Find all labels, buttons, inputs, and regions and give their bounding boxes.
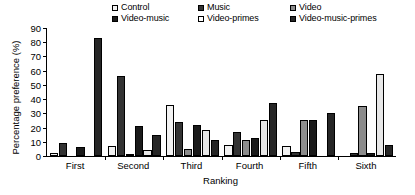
bar <box>309 120 317 156</box>
bar <box>282 146 290 156</box>
bar-group <box>105 28 163 156</box>
legend-item-label: Control <box>121 2 149 13</box>
bar <box>385 145 393 156</box>
bar <box>76 147 84 156</box>
x-axis-tick-labels: FirstSecondThirdFourthFifthSixth <box>46 160 395 172</box>
y-axis-tick-label: 50 <box>30 79 41 90</box>
bar <box>166 105 174 156</box>
bar-group <box>280 28 338 156</box>
x-axis-tick-label: Second <box>104 160 162 172</box>
bar <box>233 132 241 156</box>
y-axis-tick-label: 70 <box>30 51 41 62</box>
bar <box>202 130 210 156</box>
bar <box>59 143 67 156</box>
legend-item-label: Video-music-primes <box>299 13 377 24</box>
legend-swatch-icon <box>198 16 204 22</box>
bar <box>327 113 335 156</box>
legend-swatch-icon <box>290 16 296 22</box>
bar <box>242 140 250 156</box>
bar <box>260 120 268 156</box>
bar <box>269 103 277 156</box>
bar <box>300 120 308 156</box>
y-axis-tick <box>43 156 47 157</box>
bar <box>94 38 102 156</box>
plot-area: 0102030405060708090 <box>46 28 396 157</box>
x-axis-tick-label: Third <box>162 160 220 172</box>
bar <box>135 126 143 156</box>
legend-item: Video <box>290 2 386 13</box>
bar <box>367 153 375 156</box>
legend-item: Video-music <box>112 13 198 24</box>
legend-item-label: Video <box>299 2 321 13</box>
y-axis-tick-label: 40 <box>30 94 41 105</box>
bar-groups <box>47 28 396 156</box>
bar <box>211 140 219 156</box>
y-axis-tick-label: 30 <box>30 108 41 119</box>
legend-item: Video-music-primes <box>290 13 386 24</box>
bar <box>358 106 366 156</box>
x-axis-tick-label: Fourth <box>221 160 279 172</box>
legend-item: Control <box>112 2 198 13</box>
bar-group <box>338 28 396 156</box>
x-axis-tick-label: First <box>46 160 104 172</box>
bar <box>50 153 58 156</box>
bar-group <box>47 28 105 156</box>
bar <box>152 135 160 156</box>
legend-item-label: Video-primes <box>207 13 259 24</box>
legend-swatch-icon <box>290 5 296 11</box>
chart-legend: ControlMusicVideoVideo-musicVideo-primes… <box>112 2 380 24</box>
y-axis-tick-label: 10 <box>30 136 41 147</box>
bar <box>376 74 384 156</box>
y-axis-tick-label: 80 <box>30 37 41 48</box>
bar-group <box>222 28 280 156</box>
bar-group <box>163 28 221 156</box>
legend-swatch-icon <box>112 5 118 11</box>
y-axis-title: Percentage preference (%) <box>10 34 21 162</box>
legend-item-label: Music <box>207 2 230 13</box>
bar <box>175 122 183 156</box>
y-axis-tick-label: 90 <box>30 23 41 34</box>
bar <box>291 152 299 156</box>
legend-item: Music <box>198 2 290 13</box>
bar-chart: ControlMusicVideoVideo-musicVideo-primes… <box>0 0 415 195</box>
bar <box>108 146 116 156</box>
bar <box>251 138 259 156</box>
legend-item: Video-primes <box>198 13 290 24</box>
y-axis-tick-label: 0 <box>36 151 41 162</box>
x-axis-tick-label: Fifth <box>279 160 337 172</box>
bar <box>224 145 232 156</box>
x-axis-tick-label: Sixth <box>337 160 395 172</box>
bar <box>126 154 134 156</box>
bar <box>193 125 201 156</box>
legend-swatch-icon <box>198 5 204 11</box>
y-axis-tick-label: 60 <box>30 65 41 76</box>
bar <box>143 150 151 156</box>
bar <box>184 149 192 156</box>
legend-swatch-icon <box>112 16 118 22</box>
legend-item-label: Video-music <box>121 13 169 24</box>
bar <box>117 76 125 156</box>
x-axis-title: Ranking <box>46 175 395 186</box>
bar <box>350 153 358 156</box>
y-axis-tick-label: 20 <box>30 122 41 133</box>
